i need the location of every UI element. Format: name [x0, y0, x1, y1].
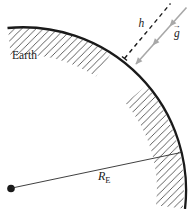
earth-radius-line [12, 153, 181, 189]
earth-gravity-diagram: RE h → g Earth [0, 0, 193, 209]
earth-hatching-lower [126, 86, 184, 209]
gravity-label: g [174, 27, 180, 40]
radius-label: RE [97, 169, 111, 185]
earth-center-dot [7, 185, 15, 193]
figure-canvas: RE h → g Earth [0, 0, 193, 209]
height-label: h [139, 17, 145, 29]
earth-label: Earth [12, 49, 37, 61]
